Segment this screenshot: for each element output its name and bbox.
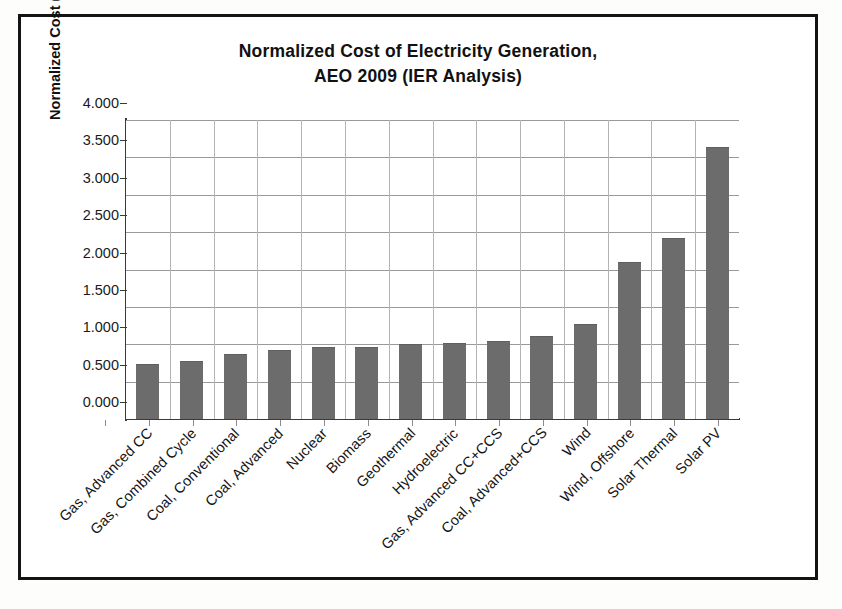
bar[interactable] (530, 336, 553, 419)
x-axis-category-label: Coal, Advanced (202, 425, 286, 509)
bar[interactable] (706, 147, 729, 419)
category-gridline (608, 120, 609, 419)
y-axis-tickmark (120, 253, 127, 254)
category-gridline (170, 120, 171, 419)
x-axis-tickmark (105, 420, 106, 426)
category-gridline (214, 120, 215, 419)
x-axis-category-label: Wind (559, 425, 594, 460)
chart-title: Normalized Cost of Electricity Generatio… (21, 39, 815, 89)
y-axis-tick-label: 3.500 (63, 133, 119, 147)
x-axis-category-labels: Gas, Advanced CCGas, Combined CycleCoal,… (126, 419, 739, 579)
bar[interactable] (355, 347, 378, 420)
y-axis-tick-label: 2.500 (63, 208, 119, 222)
scanned-page: Normalized Cost of Electricity Generatio… (0, 0, 842, 609)
category-gridline (651, 120, 652, 419)
category-gridline (345, 120, 346, 419)
y-axis-tick-label: 1.000 (63, 320, 119, 334)
category-gridline (476, 120, 477, 419)
category-gridline (564, 120, 565, 419)
y-axis-tickmark (120, 365, 127, 366)
y-axis-tickmark (120, 402, 127, 403)
category-gridline (695, 120, 696, 419)
chart-title-line-2: AEO 2009 (IER Analysis) (21, 64, 815, 89)
bar[interactable] (487, 341, 510, 420)
bar[interactable] (618, 262, 641, 419)
category-gridline (520, 120, 521, 419)
bar[interactable] (180, 361, 203, 419)
bar[interactable] (574, 324, 597, 419)
y-axis-tickmark (120, 215, 127, 216)
y-axis-tickmark (120, 103, 127, 104)
chart-frame: Normalized Cost of Electricity Generatio… (18, 14, 818, 580)
y-axis-tickmark (120, 290, 127, 291)
bar[interactable] (224, 354, 247, 419)
category-gridline (257, 120, 258, 419)
y-axis-tick-label: 2.000 (63, 246, 119, 260)
y-axis-tick-label: 4.000 (63, 96, 119, 110)
category-gridline (433, 120, 434, 419)
bar[interactable] (136, 364, 159, 419)
bar[interactable] (312, 347, 335, 420)
bar[interactable] (399, 344, 422, 420)
y-axis-tick-label: 3.000 (63, 171, 119, 185)
bar[interactable] (662, 238, 685, 419)
y-axis-tick-label: 1.500 (63, 283, 119, 297)
plot-area (126, 120, 739, 419)
chart-title-line-1: Normalized Cost of Electricity Generatio… (239, 41, 597, 61)
category-gridline (389, 120, 390, 419)
x-axis-category-label: Solar PV (672, 425, 724, 477)
bar[interactable] (268, 350, 291, 420)
bar[interactable] (443, 343, 466, 419)
category-gridline (301, 120, 302, 419)
y-axis-tickmark (120, 178, 127, 179)
y-axis-tickmark (120, 327, 127, 328)
y-axis-tick-label: 0.000 (63, 395, 119, 409)
y-axis-tickmark (120, 140, 127, 141)
y-axis-tick-label: 0.500 (63, 358, 119, 372)
